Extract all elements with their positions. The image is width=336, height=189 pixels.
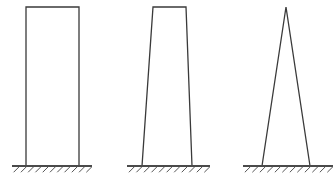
frame-diagram-svg — [0, 0, 336, 189]
diagram-canvas — [0, 0, 336, 189]
canvas-background — [0, 0, 336, 189]
